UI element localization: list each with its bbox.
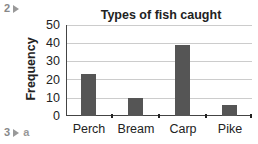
gridline: [66, 25, 252, 26]
y-tick-label: 30: [30, 55, 60, 67]
gridline: [66, 43, 252, 44]
bar-carp: [175, 45, 190, 116]
y-axis: [66, 25, 67, 116]
x-tick: [205, 114, 207, 118]
chart-title: Types of fish caught: [66, 8, 256, 22]
y-tick-label: 0: [30, 110, 60, 122]
gridline: [66, 61, 252, 62]
y-tick-label: 50: [30, 19, 60, 31]
y-tick-label: 40: [30, 37, 60, 49]
x-category-label: Carp: [160, 122, 206, 136]
y-tick-label: 20: [30, 74, 60, 86]
question-number-text: 2: [4, 2, 10, 14]
arrow-icon: [13, 5, 19, 13]
x-tick: [158, 114, 160, 118]
x-category-label: Pike: [207, 122, 253, 136]
question-number-text: 3: [4, 126, 10, 138]
y-tick-label: 10: [30, 92, 60, 104]
x-tick: [250, 114, 252, 118]
question-number-3: 3a: [4, 126, 29, 138]
x-category-label: Bream: [113, 122, 159, 136]
x-tick: [111, 114, 113, 118]
bar-perch: [81, 74, 96, 116]
question-number-2: 2: [4, 2, 19, 14]
x-category-label: Perch: [66, 122, 112, 136]
bar-pike: [222, 105, 237, 116]
question-part-label: a: [23, 126, 29, 138]
plot-area: [66, 25, 252, 116]
arrow-icon: [13, 129, 19, 137]
bar-bream: [128, 98, 143, 116]
